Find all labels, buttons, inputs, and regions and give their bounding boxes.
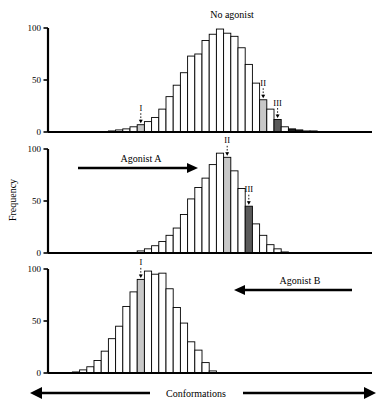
bar	[101, 351, 108, 373]
y-tick-label: 100	[28, 264, 42, 274]
bar	[152, 117, 159, 132]
y-tick-label: 0	[37, 368, 42, 378]
bar	[238, 48, 245, 132]
bar-state-III	[245, 206, 252, 253]
bar	[195, 54, 202, 132]
bar	[188, 56, 195, 132]
panel-2: 050100IIIIIAgonist A	[28, 135, 373, 258]
x-axis-conformations: Conformations	[30, 387, 376, 399]
y-tick-label: 100	[28, 23, 42, 33]
bar	[116, 326, 123, 373]
bar	[159, 242, 166, 253]
conformations-arrow-right	[364, 387, 376, 399]
bar-state-II	[224, 157, 231, 253]
bar	[252, 83, 259, 132]
bar-state-I	[137, 279, 144, 373]
bar	[166, 289, 173, 373]
bar	[231, 36, 238, 132]
bar	[166, 97, 173, 132]
agonist-arrow-label: Agonist B	[280, 275, 321, 286]
bar	[231, 171, 238, 253]
bar	[188, 199, 195, 253]
y-tick-label: 0	[37, 248, 42, 258]
state-marker-label-I: I	[139, 103, 142, 113]
bar-state-II	[260, 100, 267, 132]
bar	[166, 235, 173, 253]
bar	[173, 85, 180, 132]
bar	[209, 165, 216, 253]
conformations-arrow-left	[30, 387, 42, 399]
state-marker-arrowhead-I	[139, 274, 143, 278]
y-tick-label: 50	[32, 316, 42, 326]
agonist-arrow-label: Agonist A	[121, 153, 163, 164]
bar	[188, 342, 195, 373]
bar	[152, 274, 159, 373]
bar	[123, 306, 130, 373]
bar	[267, 245, 274, 253]
bar	[202, 40, 209, 132]
state-marker-label-III: III	[273, 98, 282, 108]
bar	[173, 307, 180, 373]
bar	[245, 64, 252, 132]
state-marker-label-I: I	[139, 257, 142, 267]
bar	[202, 363, 209, 373]
bar	[267, 109, 274, 132]
state-marker-arrowhead-III	[247, 201, 251, 205]
bar	[180, 215, 187, 253]
figure-root: 050100IIIIIINo agonist050100IIIIIAgonist…	[0, 0, 383, 411]
histogram-figure: 050100IIIIIINo agonist050100IIIIIAgonist…	[0, 0, 383, 411]
state-marker-label-III: III	[245, 184, 254, 194]
state-marker-label-II: II	[260, 78, 266, 88]
bar	[195, 350, 202, 373]
y-tick-label: 100	[28, 144, 42, 154]
panel-3: 050100IAgonist B	[28, 257, 373, 378]
y-axis-title: Frequency	[7, 179, 18, 221]
y-tick-label: 0	[37, 127, 42, 137]
x-axis-title: Conformations	[166, 388, 226, 399]
state-marker-label-II: II	[224, 135, 230, 145]
bar	[224, 33, 231, 132]
bar	[260, 235, 267, 253]
state-marker-arrowhead-II	[261, 95, 265, 99]
bar	[159, 109, 166, 132]
bar-state-III	[274, 120, 281, 132]
bar	[159, 273, 166, 373]
y-tick-label: 50	[32, 196, 42, 206]
bar	[202, 178, 209, 253]
state-marker-arrowhead-I	[139, 120, 143, 124]
bar	[108, 339, 115, 373]
bar	[252, 224, 259, 253]
agonist-arrow-head	[187, 163, 198, 173]
bar	[130, 292, 137, 373]
panel-title: No agonist	[210, 9, 254, 20]
y-tick-label: 50	[32, 75, 42, 85]
bar	[216, 29, 223, 132]
state-marker-arrowhead-III	[276, 115, 280, 119]
bar	[173, 228, 180, 253]
bar	[238, 189, 245, 253]
bar	[195, 187, 202, 253]
bar	[209, 34, 216, 132]
bar	[216, 153, 223, 253]
panel-1: 050100IIIIIINo agonist	[28, 9, 373, 137]
bar	[144, 122, 151, 132]
state-marker-arrowhead-II	[225, 152, 229, 156]
bar	[94, 361, 101, 373]
bar	[180, 323, 187, 373]
bar	[180, 73, 187, 132]
bar	[144, 271, 151, 373]
agonist-arrow-head	[234, 285, 245, 295]
